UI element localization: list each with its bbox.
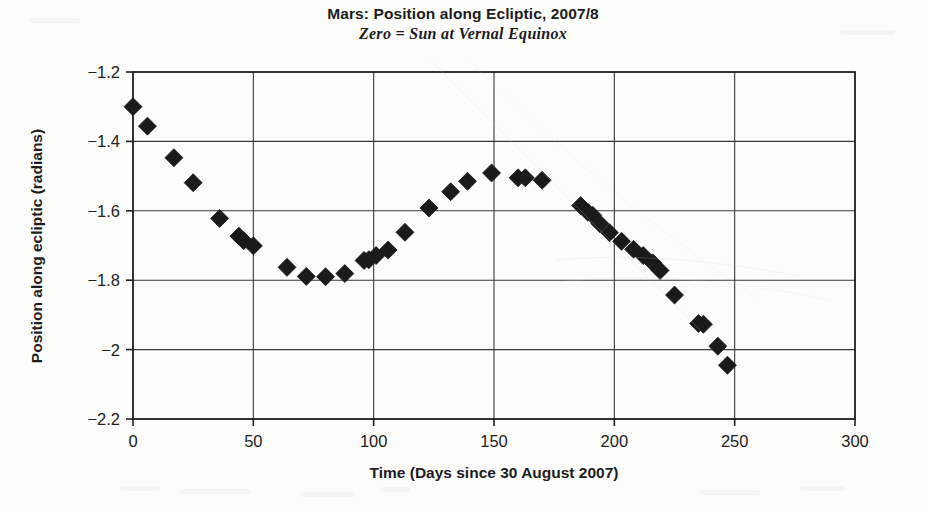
scatter-plot: 050100150200250300−1.2−1.4−1.6−1.8−2−2.2… xyxy=(0,0,926,513)
data-points xyxy=(124,98,736,375)
x-tick-label: 100 xyxy=(360,432,388,450)
data-point-marker xyxy=(396,223,414,241)
tick-labels: 050100150200250300−1.2−1.4−1.6−1.8−2−2.2 xyxy=(87,63,868,450)
y-tick-label: −2.2 xyxy=(87,410,120,428)
y-tick-label: −1.6 xyxy=(87,202,120,220)
y-tick-label: −1.4 xyxy=(87,132,120,150)
data-point-marker xyxy=(297,267,315,285)
y-tick-label: −2 xyxy=(101,341,120,359)
data-point-marker xyxy=(278,258,296,276)
x-tick-label: 300 xyxy=(841,432,869,450)
data-point-marker xyxy=(165,149,183,167)
data-point-marker xyxy=(138,117,156,135)
data-point-marker xyxy=(124,98,142,116)
data-point-marker xyxy=(533,171,551,189)
y-tick-label: −1.8 xyxy=(87,271,120,289)
y-axis-title: Position along ecliptic (radians) xyxy=(28,129,45,363)
x-tick-label: 50 xyxy=(244,432,262,450)
x-tick-label: 200 xyxy=(601,432,629,450)
data-point-marker xyxy=(718,356,736,374)
data-point-marker xyxy=(420,199,438,217)
x-tick-label: 250 xyxy=(721,432,749,450)
x-tick-label: 0 xyxy=(128,432,137,450)
data-point-marker xyxy=(459,172,477,190)
data-point-marker xyxy=(442,183,460,201)
data-point-marker xyxy=(709,337,727,355)
y-tick-label: −1.2 xyxy=(87,63,120,81)
data-point-marker xyxy=(666,286,684,304)
tick-marks xyxy=(126,72,855,426)
data-point-marker xyxy=(317,268,335,286)
data-point-marker xyxy=(184,174,202,192)
x-axis-title: Time (Days since 30 August 2007) xyxy=(370,464,619,481)
data-point-marker xyxy=(483,164,501,182)
x-tick-label: 150 xyxy=(480,432,508,450)
data-point-marker xyxy=(211,209,229,227)
figure-canvas: Mars: Position along Ecliptic, 2007/8 Ze… xyxy=(0,0,926,513)
